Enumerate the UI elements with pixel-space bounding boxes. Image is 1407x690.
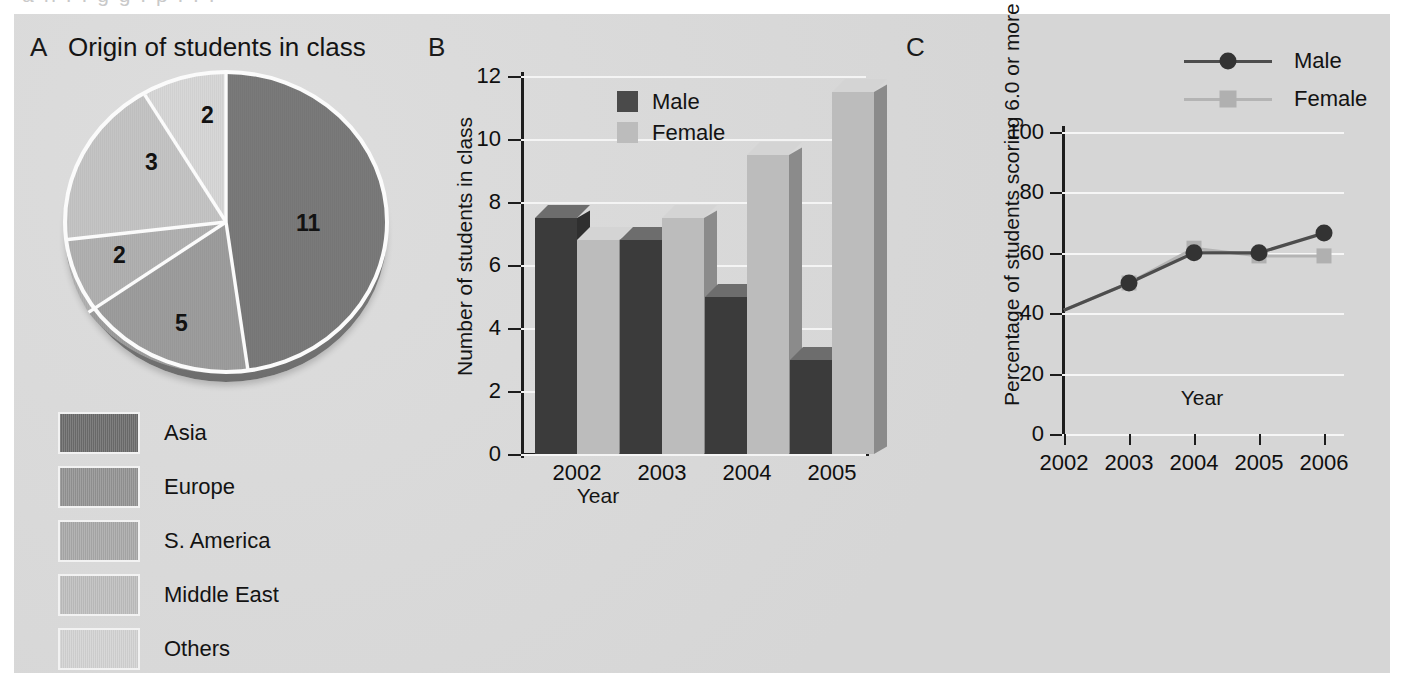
panel-c-xlabel-2003: 2003 (1105, 450, 1154, 476)
panel-b-bar-chart: B Number of students in class (426, 14, 896, 673)
caption-bleed-text: a fi . . g g . p . . . (22, 0, 217, 7)
panel-c-ylabel-0: 0 (1032, 421, 1044, 447)
panel-c-xlabel-2005: 2005 (1235, 450, 1284, 476)
bar-front-face (747, 155, 789, 454)
panel-c-legend-line-male (1184, 60, 1272, 63)
panel-c-xtick-2003 (1129, 434, 1131, 445)
legend-item-others[interactable]: Others (58, 626, 388, 672)
panel-b-legend-label-female: Female (652, 120, 725, 146)
panel-c-legend-label-female: Female (1294, 86, 1367, 112)
panel-c-legend-item-male[interactable]: Male (1184, 42, 1367, 80)
bar-front-face (790, 360, 832, 454)
legend-item-europe[interactable]: Europe (58, 464, 388, 510)
panel-b-ytick-8 (508, 202, 521, 204)
marker-male-2005[interactable] (1251, 244, 1268, 261)
bar-female-2004[interactable] (747, 155, 789, 454)
pie-label-middle-east: 3 (145, 149, 158, 176)
panel-b-xlabel-2002: 2002 (553, 460, 602, 486)
marker-male-2003[interactable] (1121, 275, 1138, 292)
panel-b-gridline-0 (521, 454, 866, 456)
panel-c-ytick-40 (1050, 313, 1062, 315)
bar-front-face (535, 218, 577, 454)
bar-front-face (577, 240, 619, 454)
panel-c-ylabel-40: 40 (1020, 300, 1044, 326)
bar-female-2003[interactable] (662, 218, 704, 454)
panel-c-legend-item-female[interactable]: Female (1184, 80, 1367, 118)
caption-bleed-row: a fi . . g g . p . . . (0, 0, 1407, 13)
panel-c-ytick-80 (1050, 192, 1062, 194)
marker-female-2006[interactable] (1317, 248, 1332, 263)
panel-b-y-axis-title: Number of students in class (453, 126, 477, 376)
panel-c-legend-label-male: Male (1294, 48, 1342, 74)
pie-chart-graphic: 11 5 2 3 2 (58, 62, 398, 402)
marker-male-2006[interactable] (1316, 225, 1333, 242)
pie-legend: Asia Europe S. America Middle East Other… (58, 410, 388, 680)
pie-label-asia: 11 (296, 210, 320, 237)
panel-a-title: Origin of students in class (68, 32, 366, 63)
panel-a-pie-chart: A Origin of students in class (14, 14, 444, 673)
panel-a-letter: A (30, 32, 47, 63)
legend-label-middle-east: Middle East (164, 582, 279, 608)
panel-b-ytick-10 (508, 139, 521, 141)
panel-c-xtick-2005 (1259, 434, 1261, 445)
panel-b-legend-swatch-male (617, 91, 638, 112)
panel-c-ylabel-100: 100 (1007, 119, 1044, 145)
panel-b-ylabel-8: 8 (489, 189, 501, 215)
legend-item-s-america[interactable]: S. America (58, 518, 388, 564)
panel-b-legend-swatch-female (617, 122, 638, 143)
panel-b-gridline-8 (521, 202, 866, 204)
bar-female-2005[interactable] (832, 92, 874, 454)
bar-male-2003[interactable] (620, 240, 662, 454)
bar-male-2002[interactable] (535, 218, 577, 454)
legend-item-middle-east[interactable]: Middle East (58, 572, 388, 618)
marker-male-2004[interactable] (1186, 244, 1203, 261)
panel-b-ylabel-10: 10 (477, 126, 501, 152)
legend-label-europe: Europe (164, 474, 235, 500)
panel-b-x-axis-title: Year (577, 484, 619, 508)
panel-c-xtick-2004 (1194, 434, 1196, 445)
panel-c-ylabel-20: 20 (1020, 361, 1044, 387)
legend-swatch-europe (58, 466, 140, 508)
panel-b-ytick-6 (508, 265, 521, 267)
panel-b-ylabel-12: 12 (477, 63, 501, 89)
bar-front-face (662, 218, 704, 454)
panel-c-ytick-60 (1050, 253, 1062, 255)
panel-c-ylabel-60: 60 (1020, 240, 1044, 266)
panel-b-ytick-2 (508, 391, 521, 393)
circle-marker-icon (1220, 53, 1237, 70)
legend-swatch-asia (58, 412, 140, 454)
bar-male-2004[interactable] (705, 297, 747, 454)
bar-front-face (620, 240, 662, 454)
legend-label-s-america: S. America (164, 528, 270, 554)
panel-c-ytick-0 (1050, 434, 1062, 436)
legend-label-others: Others (164, 636, 230, 662)
panel-c-legend-line-female (1184, 98, 1272, 101)
legend-label-asia: Asia (164, 420, 207, 446)
panel-b-ytick-12 (508, 76, 521, 78)
legend-item-asia[interactable]: Asia (58, 410, 388, 456)
bar-side-face (874, 84, 887, 454)
panel-b-legend: Male Female (617, 86, 725, 148)
panel-b-ytick-0 (508, 454, 521, 456)
pie-label-others: 2 (201, 102, 214, 129)
figure-panel: A Origin of students in class (14, 14, 1390, 673)
legend-swatch-middle-east (58, 574, 140, 616)
pie-label-europe: 5 (175, 310, 188, 337)
panel-c-line-chart: C Percentage of students scoring 6.0 or … (894, 14, 1390, 673)
panel-c-xlabel-2002: 2002 (1040, 450, 1089, 476)
pie-label-s-america: 2 (113, 242, 126, 269)
panel-b-ylabel-4: 4 (489, 315, 501, 341)
bar-front-face (832, 92, 874, 454)
panel-b-gridline-12 (521, 76, 866, 78)
panel-b-legend-item-male[interactable]: Male (617, 86, 725, 117)
panel-b-legend-item-female[interactable]: Female (617, 117, 725, 148)
panel-b-xlabel-2003: 2003 (638, 460, 687, 486)
panel-c-ytick-100 (1050, 132, 1062, 134)
bar-female-2002[interactable] (577, 240, 619, 454)
figure-root: a fi . . g g . p . . . A Origin of stude… (0, 0, 1407, 690)
panel-c-xtick-2006 (1324, 434, 1326, 445)
panel-b-letter: B (428, 32, 445, 63)
panel-b-ytick-4 (508, 328, 521, 330)
square-marker-icon (1220, 91, 1237, 108)
bar-male-2005[interactable] (790, 360, 832, 454)
